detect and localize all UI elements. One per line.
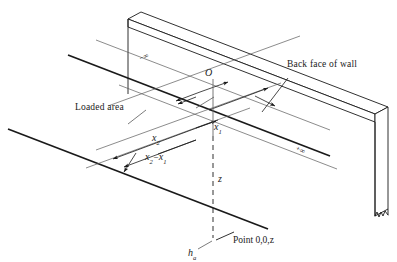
label-diff-second-sub: 1 — [163, 158, 166, 165]
label-x1-sub: 1 — [218, 128, 221, 135]
label-wall-height-ha: ha — [188, 243, 196, 262]
loaded-area-near-boundary — [8, 129, 268, 229]
leader-loaded-area — [128, 110, 146, 124]
dimension-line-x1-origin-left — [176, 92, 200, 101]
label-point-0-0-z: Point 0,0,z — [233, 236, 274, 246]
label-x2-sub: 2 — [156, 139, 159, 146]
transverse-guide-line-c — [86, 108, 250, 168]
leader-loaded-area-right — [196, 97, 214, 108]
label-back-face-of-wall: Back face of wall — [287, 60, 357, 70]
dimension-arrow-far-boundary — [255, 96, 275, 106]
wall-solid — [128, 12, 388, 217]
label-x2-minus-x1: x2−x1 — [145, 147, 167, 166]
label-x1: x1 — [214, 117, 222, 136]
label-wall-height-sub: a — [193, 254, 196, 261]
label-depth-z: z — [218, 174, 222, 184]
label-loaded-area: Loaded area — [75, 103, 124, 113]
transverse-guide-line-b — [96, 83, 281, 150]
wall-right-end-face — [375, 107, 388, 216]
figure-canvas: Back face of wall Loaded area O z Point … — [0, 0, 397, 262]
leader-point-label — [216, 232, 234, 240]
wall-front-face — [128, 19, 375, 122]
diagram-svg — [0, 0, 397, 262]
label-x2: x2 — [152, 128, 160, 147]
dimension-line-x1-upper — [236, 88, 268, 100]
dimension-line-near-boundary-tick — [124, 153, 136, 172]
dimension-line-x1-origin-right — [200, 82, 228, 92]
label-origin-O: O — [205, 68, 212, 78]
leader-wall-height — [198, 241, 212, 249]
